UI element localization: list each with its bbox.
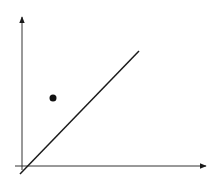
diagram-canvas (0, 0, 212, 181)
diagonal-line (20, 51, 139, 174)
data-point (50, 95, 57, 102)
